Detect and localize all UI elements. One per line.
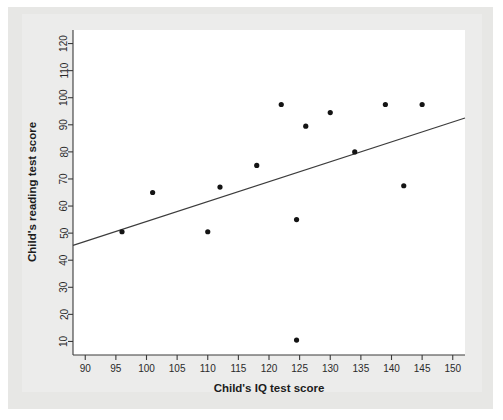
figure-container: 102030405060708090100110120 909510010511… [0,0,503,420]
y-tick-label: 60 [59,200,70,212]
y-axis-title: Child's reading test score [26,122,38,262]
data-point [328,110,333,115]
x-tick-label: 110 [200,363,216,374]
y-tick-label: 120 [59,35,70,52]
x-tick-label: 100 [138,363,155,374]
data-point [279,102,284,107]
y-tick-label: 40 [59,254,70,266]
data-point [119,229,124,234]
y-tick-label: 80 [59,146,70,158]
data-point [150,190,155,195]
y-tick-label: 10 [59,335,70,347]
y-tick-label: 20 [59,308,70,320]
data-point [217,184,222,189]
x-tick-label: 95 [110,363,122,374]
x-tick-label: 135 [353,363,370,374]
data-point [303,124,308,129]
x-tick-label: 140 [383,363,400,374]
data-point [205,229,210,234]
y-axis-ticks: 102030405060708090100110120 [59,35,74,347]
x-axis-ticks: 9095100105110115120125130135140145150 [80,355,462,374]
x-tick-label: 125 [291,363,308,374]
y-tick-label: 100 [59,89,70,106]
data-point [401,183,406,188]
y-tick-label: 30 [59,281,70,293]
data-point [294,217,299,222]
plot-area [73,30,465,355]
x-axis-title: Child's IQ test score [214,382,325,394]
scatter-plot-svg: 102030405060708090100110120 909510010511… [0,0,503,420]
y-tick-label: 110 [59,62,70,78]
y-tick-label: 50 [59,227,70,239]
data-point [420,102,425,107]
x-tick-label: 115 [230,363,246,374]
x-tick-label: 105 [169,363,186,374]
x-tick-label: 120 [261,363,278,374]
x-tick-label: 145 [414,363,431,374]
y-tick-label: 90 [59,119,70,131]
data-point [383,102,388,107]
x-tick-label: 130 [322,363,339,374]
x-tick-label: 150 [444,363,461,374]
data-point [254,163,259,168]
x-tick-label: 90 [80,363,92,374]
scatter-plot: 102030405060708090100110120 909510010511… [0,0,503,420]
data-point [294,338,299,343]
y-tick-label: 70 [59,173,70,185]
data-point [352,149,357,154]
